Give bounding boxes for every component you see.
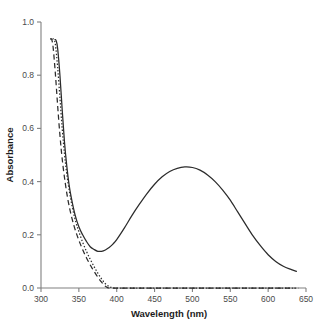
x-tick-label: 600	[261, 294, 275, 304]
x-tick-label: 550	[223, 294, 237, 304]
absorbance-spectrum-chart: 0.00.20.40.60.81.0 300350400450500550600…	[0, 0, 327, 329]
y-axis-title: Absorbance	[4, 128, 15, 183]
x-tick-label: 300	[34, 294, 48, 304]
x-tick-label: 450	[147, 294, 161, 304]
x-tick-label: 500	[185, 294, 199, 304]
y-tick-label: 1.0	[22, 17, 34, 27]
x-axis-title: Wavelength (nm)	[131, 308, 207, 319]
y-tick-label: 0.2	[22, 230, 34, 240]
x-tick-label: 650	[299, 294, 313, 304]
y-tick-label: 0.4	[22, 177, 34, 187]
data-series-group	[50, 39, 298, 288]
x-axis: 300350400450500550600650	[34, 288, 313, 304]
y-tick-label: 0.0	[22, 283, 34, 293]
y-axis: 0.00.20.40.60.81.0	[22, 17, 41, 293]
series-line-dashed-curve	[50, 39, 295, 288]
series-line-dotted-curve	[52, 39, 298, 288]
x-tick-label: 350	[72, 294, 86, 304]
x-tick-label: 400	[110, 294, 124, 304]
chart-plot-area: 0.00.20.40.60.81.0 300350400450500550600…	[0, 0, 327, 329]
y-tick-label: 0.8	[22, 70, 34, 80]
series-line-solid-curve	[55, 39, 297, 271]
y-tick-label: 0.6	[22, 123, 34, 133]
